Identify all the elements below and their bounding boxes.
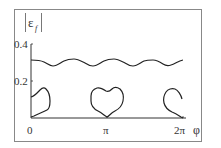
x-tick-0: 0 xyxy=(27,124,33,136)
lower-loop-right xyxy=(164,89,183,118)
figure-frame xyxy=(15,10,202,142)
x-tick-pi: π xyxy=(103,124,109,136)
chart-figure: ε f 0.4 0.2 0 π 2π φ xyxy=(0,0,221,148)
y-tick-0.2: 0.2 xyxy=(14,75,28,87)
svg-text:ε: ε xyxy=(28,15,34,30)
y-tick-0.4: 0.4 xyxy=(14,38,28,50)
svg-text:f: f xyxy=(35,24,39,33)
lower-loop-middle xyxy=(91,88,123,118)
upper-branch-curve xyxy=(31,59,183,66)
lower-loop-left xyxy=(31,88,50,117)
x-tick-2pi: 2π xyxy=(174,124,186,136)
y-axis-label: ε f xyxy=(26,13,42,33)
x-axis-label: φ xyxy=(193,123,200,137)
